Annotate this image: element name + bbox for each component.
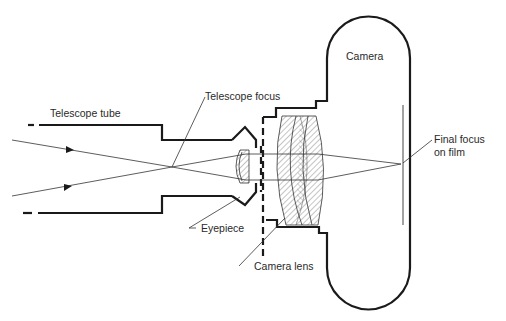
incoming-ray-upper — [12, 140, 172, 167]
tube-top-wall — [39, 125, 232, 140]
label-final-focus-2: on film — [434, 146, 465, 158]
label-eyepiece: Eyepiece — [201, 222, 244, 234]
label-final-focus-1: Final focus — [434, 133, 485, 145]
light-rays — [12, 140, 401, 196]
converging-ray-lower — [318, 164, 401, 180]
ray-to-eyepiece-lower — [172, 167, 246, 180]
telescope-tube — [23, 125, 232, 213]
camera-lens — [277, 116, 324, 225]
converging-ray-upper — [318, 154, 401, 164]
label-camera-lens: Camera lens — [254, 260, 314, 272]
telescope-camera-diagram: Telescope tube Telescope focus Camera Ey… — [0, 0, 506, 321]
leader-telescope-focus — [172, 97, 205, 167]
arrow-upper-icon — [66, 146, 74, 153]
leader-final-focus — [403, 140, 432, 163]
ray-to-eyepiece-upper — [172, 154, 246, 167]
label-telescope-focus: Telescope focus — [205, 90, 280, 102]
label-camera: Camera — [346, 50, 384, 62]
leader-camera-lens — [239, 218, 285, 266]
tube-bottom-wall — [38, 196, 232, 213]
incoming-ray-lower — [12, 167, 172, 196]
label-telescope-tube: Telescope tube — [50, 107, 121, 119]
eyepiece-bottom-chevron — [232, 183, 256, 205]
eyepiece-top-chevron — [232, 127, 256, 148]
